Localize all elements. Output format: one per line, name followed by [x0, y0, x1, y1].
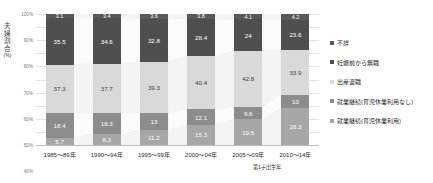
legend-label: 妊娠前から無職: [337, 58, 379, 67]
x-axis-title: 第1子出生年: [253, 163, 281, 170]
segment-value-label: 15.3: [195, 131, 207, 138]
legend-swatch-icon: [330, 80, 334, 84]
legend: 不詳妊娠前から無職出産退職就業継続(育児休業利用なし)就業継続(育児休業利用): [330, 38, 413, 125]
column-segment[interactable]: 13: [140, 113, 168, 130]
column-segment[interactable]: 37.3: [46, 65, 74, 114]
x-axis-tick-label: 1985〜89年: [44, 150, 76, 159]
segment-value-label: 9.6: [244, 110, 253, 117]
segment-value-label: 42.8: [242, 75, 254, 82]
y-axis-tick-label: 80%: [24, 64, 33, 69]
column-segment[interactable]: 15.3: [187, 125, 215, 145]
x-axis-tick-label: 2010〜14年: [279, 150, 311, 159]
y-axis-tick-label: 50%: [24, 143, 33, 148]
x-axis-line: [36, 145, 319, 146]
y-axis-tick-label: 70%: [24, 90, 33, 95]
x-axis-tick-label: 1990〜94年: [91, 150, 123, 159]
x-axis-tick-label: 2005〜09年: [232, 150, 264, 159]
column[interactable]: 3.828.440.412.115.3: [187, 14, 215, 145]
segment-value-label: 13: [150, 118, 157, 125]
column-segment[interactable]: 37.7: [93, 64, 121, 113]
legend-item[interactable]: 不詳: [330, 38, 413, 47]
segment-value-label: 5.7: [55, 138, 64, 145]
segment-value-label: 33.9: [289, 69, 301, 76]
column-segment[interactable]: 10: [281, 95, 309, 108]
segment-value-label: 3.8: [197, 14, 205, 19]
segment-value-label: 23.6: [289, 31, 301, 38]
legend-label: 出産退職: [337, 77, 361, 86]
legend-item[interactable]: 妊娠前から無職: [330, 58, 413, 67]
y-axis-tick-label: 90%: [24, 38, 33, 43]
legend-item[interactable]: 出産退職: [330, 77, 413, 86]
column-segment[interactable]: 19.5: [234, 119, 262, 145]
y-axis-tick-label: 100%: [21, 12, 33, 17]
plot-area: 100%90%80%70%60%50%40%30%20%10%0% 3.135.…: [36, 14, 319, 145]
x-axis-tick-label: 1995〜99年: [138, 150, 170, 159]
column-segment[interactable]: 11.2: [140, 130, 168, 145]
legend-swatch-icon: [330, 60, 334, 64]
segment-value-label: 12.1: [195, 114, 207, 121]
x-axis-tick-label: 2000〜04年: [185, 150, 217, 159]
segment-value-label: 10: [292, 98, 299, 105]
column-segment[interactable]: 24: [234, 19, 262, 50]
column-segment[interactable]: 42.8: [234, 51, 262, 107]
segment-value-label: 11.2: [148, 134, 160, 141]
segment-value-label: 3.1: [56, 14, 64, 18]
column-segment[interactable]: 5.7: [46, 138, 74, 145]
segment-value-label: 37.3: [54, 85, 66, 92]
segment-value-label: 28.4: [195, 34, 207, 41]
legend-item[interactable]: 就業継続(育児休業利用なし): [330, 97, 413, 106]
column-segment[interactable]: 40.4: [187, 56, 215, 109]
column-segment[interactable]: 32.8: [140, 19, 168, 62]
legend-swatch-icon: [330, 119, 334, 123]
segment-value-label: 3.4: [103, 14, 111, 18]
segment-value-label: 32.8: [148, 37, 160, 44]
y-axis-title-char: (%): [1, 52, 14, 60]
column-group: 3.135.537.318.45.73.434.637.716.38.33.63…: [36, 14, 319, 145]
legend-label: 就業継続(育児休業利用なし): [337, 97, 413, 106]
y-axis-title-char: 割: [1, 37, 14, 45]
column[interactable]: 3.434.637.716.38.3: [93, 14, 121, 145]
segment-value-label: 24: [245, 32, 252, 39]
segment-value-label: 37.7: [101, 85, 113, 92]
column-segment[interactable]: 35.5: [46, 18, 74, 65]
segment-value-label: 28.3: [289, 123, 301, 130]
column-segment[interactable]: 33.9: [281, 50, 309, 94]
column[interactable]: 4.12442.89.619.5: [234, 14, 262, 145]
y-axis-title-char: 夫: [1, 22, 14, 30]
y-axis-tick-label: 60%: [24, 116, 33, 121]
column[interactable]: 3.135.537.318.45.7: [46, 14, 74, 145]
column-segment[interactable]: 16.3: [93, 113, 121, 134]
legend-label: 不詳: [337, 38, 349, 47]
column-segment[interactable]: 28.4: [187, 19, 215, 56]
segment-value-label: 34.6: [101, 38, 113, 45]
legend-swatch-icon: [330, 41, 334, 45]
y-axis-title-char: 合: [1, 45, 14, 53]
column-segment[interactable]: 34.6: [93, 18, 121, 63]
y-axis-title: 夫婦割合(%): [1, 22, 14, 60]
segment-value-label: 16.3: [101, 120, 113, 127]
segment-value-label: 18.4: [54, 122, 66, 129]
column[interactable]: 4.223.633.91028.3: [281, 14, 309, 145]
legend-swatch-icon: [330, 99, 334, 103]
column-segment[interactable]: 8.3: [93, 134, 121, 145]
segment-value-label: 8.3: [102, 136, 111, 143]
segment-value-label: 3.6: [150, 14, 158, 19]
segment-value-label: 4.1: [245, 14, 253, 19]
column-segment[interactable]: 28.3: [281, 108, 309, 145]
stacked-bar-chart: 夫婦割合(%) 100%90%80%70%60%50%40%30%20%10%0…: [0, 0, 433, 183]
column-segment[interactable]: 9.6: [234, 107, 262, 120]
column-segment[interactable]: 39.3: [140, 62, 168, 113]
column-segment[interactable]: 12.1: [187, 109, 215, 125]
y-axis-tick-label: 40%: [24, 169, 33, 174]
column[interactable]: 3.632.839.31311.2: [140, 14, 168, 145]
segment-value-label: 40.4: [195, 79, 207, 86]
segment-value-label: 4.2: [292, 14, 300, 20]
column-segment[interactable]: 18.4: [46, 113, 74, 137]
segment-value-label: 39.3: [148, 84, 160, 91]
segment-value-label: 19.5: [242, 129, 254, 136]
column-segment[interactable]: 23.6: [281, 20, 309, 51]
legend-item[interactable]: 就業継続(育児休業利用): [330, 116, 413, 125]
legend-label: 就業継続(育児休業利用): [337, 116, 401, 125]
segment-value-label: 35.5: [54, 38, 66, 45]
